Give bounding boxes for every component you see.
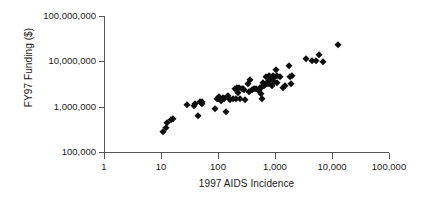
data-point: [244, 81, 252, 89]
data-point: [258, 83, 266, 91]
data-point: [252, 85, 260, 93]
data-point: [221, 95, 229, 103]
data-point: [241, 86, 249, 94]
x-tick-label: 10,000: [302, 161, 362, 172]
data-point: [288, 72, 296, 80]
data-point: [335, 41, 343, 49]
data-point: [264, 80, 272, 88]
data-point: [259, 79, 267, 87]
x-tick-label: 100: [188, 161, 248, 172]
data-point: [231, 86, 239, 94]
data-point: [319, 58, 327, 66]
data-point: [287, 81, 295, 89]
data-point: [250, 85, 258, 93]
data-point: [255, 87, 263, 95]
data-point: [234, 89, 242, 97]
data-point: [198, 100, 206, 108]
data-point: [302, 56, 310, 64]
data-point: [196, 98, 204, 106]
data-point: [261, 83, 269, 91]
x-tick-mark: [218, 153, 219, 159]
data-point: [267, 74, 275, 82]
data-point: [211, 105, 219, 113]
y-axis-line: [104, 16, 105, 153]
x-tick-label: 1: [74, 161, 134, 172]
data-point: [257, 90, 265, 98]
data-point: [215, 94, 223, 102]
data-point: [256, 84, 264, 92]
y-tick-mark: [99, 61, 105, 62]
y-axis-title: FY97 Funding ($): [23, 0, 34, 148]
data-point: [219, 94, 227, 102]
data-point: [281, 82, 289, 90]
data-point: [192, 100, 200, 108]
data-point: [213, 95, 221, 103]
data-point: [308, 58, 316, 66]
data-point: [164, 119, 172, 127]
data-point: [270, 72, 278, 80]
y-tick-mark: [99, 107, 105, 108]
data-point: [198, 98, 206, 106]
scatter-chart: FY97 Funding ($) 1997 AIDS Incidence 100…: [0, 0, 421, 201]
data-point: [280, 84, 288, 92]
data-point: [269, 74, 277, 82]
data-point: [238, 85, 246, 93]
data-point: [286, 74, 294, 82]
data-point: [276, 73, 284, 81]
data-point: [233, 84, 241, 92]
data-point: [236, 95, 244, 103]
data-point: [190, 102, 198, 110]
data-point: [167, 116, 175, 124]
data-point: [194, 112, 202, 120]
data-point: [235, 84, 243, 92]
data-point: [160, 128, 168, 136]
y-tick-label: 1,000,000: [6, 101, 96, 112]
data-point: [263, 79, 271, 87]
x-axis-title: 1997 AIDS Incidence: [104, 178, 389, 189]
x-axis-line: [104, 152, 389, 153]
y-tick-mark: [99, 16, 105, 17]
data-point: [239, 85, 247, 93]
data-point: [266, 78, 274, 86]
data-point: [245, 88, 253, 96]
data-point: [268, 82, 276, 90]
x-tick-mark: [161, 153, 162, 159]
x-tick-mark: [332, 153, 333, 159]
data-point: [285, 62, 293, 70]
data-point: [217, 97, 225, 105]
data-point: [271, 73, 279, 81]
data-point: [241, 96, 249, 104]
y-tick-label: 10,000,000: [6, 55, 96, 66]
data-point: [214, 96, 222, 104]
data-point: [247, 76, 255, 84]
data-point: [223, 93, 231, 101]
data-point: [273, 72, 281, 80]
data-point: [169, 115, 177, 123]
data-point: [232, 95, 240, 103]
data-point: [224, 92, 232, 100]
data-point: [162, 125, 170, 133]
x-tick-mark: [389, 153, 390, 159]
x-tick-label: 100,000: [359, 161, 419, 172]
data-point: [229, 96, 237, 104]
y-tick-label: 100,000,000: [6, 10, 96, 21]
data-point: [259, 95, 267, 103]
data-point: [274, 79, 282, 87]
data-point: [197, 99, 205, 107]
data-point: [226, 96, 234, 104]
data-point: [271, 78, 279, 86]
x-tick-mark: [104, 153, 105, 159]
data-point: [312, 57, 320, 65]
data-point: [262, 81, 270, 89]
data-point: [184, 101, 192, 109]
data-point: [223, 108, 231, 116]
data-point: [262, 73, 270, 81]
data-point: [249, 86, 257, 94]
y-tick-label: 100,000: [6, 146, 96, 157]
x-tick-mark: [275, 153, 276, 159]
x-tick-label: 10: [131, 161, 191, 172]
data-point: [316, 52, 324, 60]
x-tick-label: 1,000: [245, 161, 305, 172]
data-point: [265, 72, 273, 80]
data-point: [272, 67, 280, 75]
